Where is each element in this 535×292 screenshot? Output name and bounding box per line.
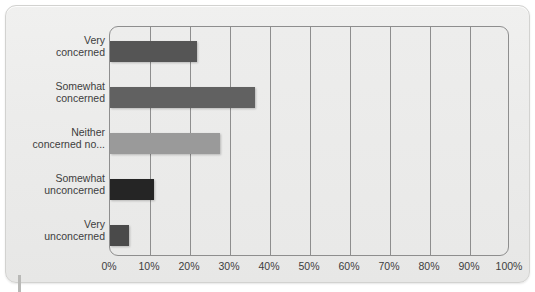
gridline bbox=[390, 27, 391, 255]
x-tick-label: 50% bbox=[298, 259, 319, 273]
bar[interactable] bbox=[110, 133, 220, 154]
x-tick-label: 40% bbox=[258, 259, 279, 273]
x-tick-label: 30% bbox=[218, 259, 239, 273]
bar[interactable] bbox=[110, 179, 154, 200]
bar[interactable] bbox=[110, 225, 129, 246]
gridline bbox=[310, 27, 311, 255]
x-tick-label: 60% bbox=[338, 259, 359, 273]
gridline bbox=[270, 27, 271, 255]
category-label: Very concerned bbox=[9, 34, 105, 58]
gridline bbox=[350, 27, 351, 255]
bar[interactable] bbox=[110, 41, 197, 62]
plot-area bbox=[109, 26, 509, 256]
x-tick-label: 70% bbox=[378, 259, 399, 273]
category-label: Neither concerned no... bbox=[9, 126, 105, 150]
corner-marker bbox=[18, 275, 21, 292]
x-tick-label: 90% bbox=[458, 259, 479, 273]
x-tick-label: 80% bbox=[418, 259, 439, 273]
category-axis-labels: Very concernedSomewhat concernedNeither … bbox=[6, 26, 105, 256]
category-label: Somewhat concerned bbox=[9, 80, 105, 104]
bar[interactable] bbox=[110, 87, 255, 108]
x-tick-label: 100% bbox=[496, 259, 523, 273]
gridline bbox=[470, 27, 471, 255]
x-tick-label: 20% bbox=[178, 259, 199, 273]
value-axis-labels: 0%10%20%30%40%50%60%70%80%90%100% bbox=[109, 259, 509, 275]
category-label: Very unconcerned bbox=[9, 218, 105, 242]
gridline bbox=[430, 27, 431, 255]
x-tick-label: 10% bbox=[138, 259, 159, 273]
chart-card: Very concernedSomewhat concernedNeither … bbox=[5, 5, 530, 283]
gridline bbox=[230, 27, 231, 255]
category-label: Somewhat unconcerned bbox=[9, 172, 105, 196]
x-tick-label: 0% bbox=[101, 259, 116, 273]
